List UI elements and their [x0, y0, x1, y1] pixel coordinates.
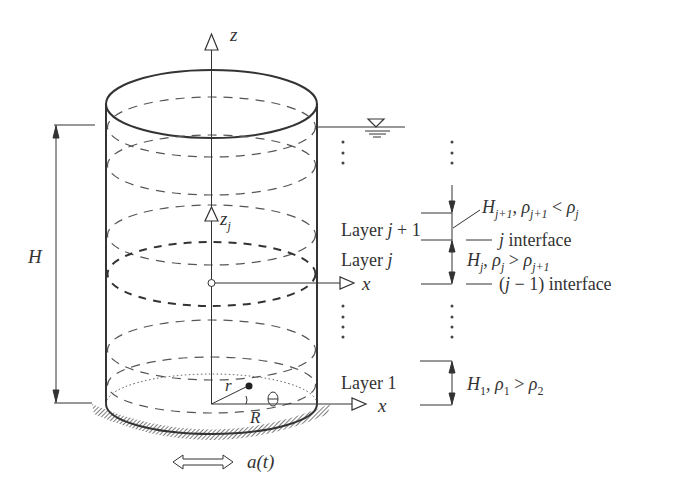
x-axis-label-bottom: x: [377, 395, 387, 416]
point-marker: [246, 383, 253, 390]
x-axis-label-top: x: [361, 273, 371, 294]
excitation-label: a(t): [247, 451, 274, 473]
z-axis: [205, 34, 218, 404]
x-axis-bottom: [212, 398, 367, 410]
annotation-h-1: H1, ρ1 > ρ2: [466, 374, 543, 398]
H-label: H: [27, 246, 43, 267]
R-label: R: [249, 408, 261, 427]
height-dimension: [53, 125, 95, 403]
layer-1-bracket: [420, 361, 455, 405]
polar-coordinates: [212, 386, 279, 406]
z-axis-label: z: [229, 24, 238, 45]
zj-axis-label: zj: [219, 208, 231, 233]
annotation-j-interface: j interface: [497, 230, 571, 250]
layer-j-label: Layer j: [341, 250, 392, 270]
annotation-h-j: Hj, ρj > ρj+1: [466, 250, 550, 274]
x-axis-layer-j: [208, 277, 354, 289]
layered-tank-diagram: z zj x x r R H: [0, 0, 674, 499]
r-label: r: [225, 376, 232, 395]
double-arrow-icon: [173, 455, 233, 469]
annotation-j-minus-1-interface: (j − 1) interface: [499, 274, 612, 295]
layer-j-plus-1-label: Layer j + 1: [341, 220, 421, 240]
free-surface: [318, 119, 405, 137]
layer-1-label: Layer 1: [341, 373, 396, 393]
annotation-h-j-plus-1: Hj+1, ρj+1 < ρj: [481, 197, 579, 221]
